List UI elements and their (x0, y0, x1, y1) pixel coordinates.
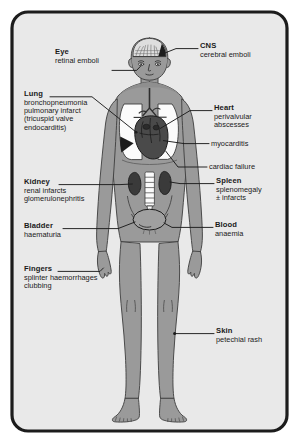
label-blood: Blood anaemia (215, 221, 243, 238)
spine (145, 172, 154, 212)
label-kidney-line-1: glomerulonephritis (24, 195, 84, 203)
label-heart: Heart perivalvular abscesses (214, 104, 252, 129)
label-lung-line-3: endocarditis) (24, 124, 87, 132)
label-fingers: Fingers splinter haemorrhages clubbing (24, 265, 98, 290)
label-myocarditis-line-0: myocarditis (211, 140, 248, 148)
label-skin: Skin petechial rash (216, 327, 262, 344)
leader-lung-dot (135, 131, 138, 134)
figure-container: Eye retinal emboli Lung bronchopneumonia… (0, 0, 299, 443)
label-bladder-line-0: haematuria (24, 231, 61, 239)
pupil-left (140, 63, 142, 65)
label-blood-line-0: anaemia (215, 230, 243, 238)
label-spleen: Spleen splenomegaly ± infarcts (216, 177, 262, 202)
label-myocarditis: myocarditis (211, 140, 248, 148)
label-eye-line-0: retinal emboli (55, 57, 99, 65)
label-lung: Lung bronchopneumonia pulmonary infarct … (24, 90, 87, 132)
label-heart-line-1: abscesses (214, 121, 252, 129)
heart-valve-vegetation-2 (153, 125, 159, 130)
label-kidney: Kidney renal infarcts glomerulonephritis (24, 178, 84, 203)
label-fingers-line-1: clubbing (24, 282, 98, 290)
leader-skin-dot (173, 332, 176, 335)
heart-valve-vegetation (143, 124, 150, 129)
kidney-left (159, 171, 171, 194)
label-cns: CNS cerebral emboli (200, 42, 251, 59)
label-skin-line-0: petechial rash (216, 336, 262, 344)
pupil-right (157, 63, 159, 65)
label-cardiac-failure-line-0: cardiac failure (209, 163, 255, 171)
label-bladder: Bladder haematuria (24, 222, 61, 239)
label-cns-line-0: cerebral emboli (200, 51, 251, 59)
label-spleen-line-1: ± infarcts (216, 194, 262, 202)
label-cardiac-failure: cardiac failure (209, 163, 255, 171)
label-eye: Eye retinal emboli (55, 48, 99, 65)
